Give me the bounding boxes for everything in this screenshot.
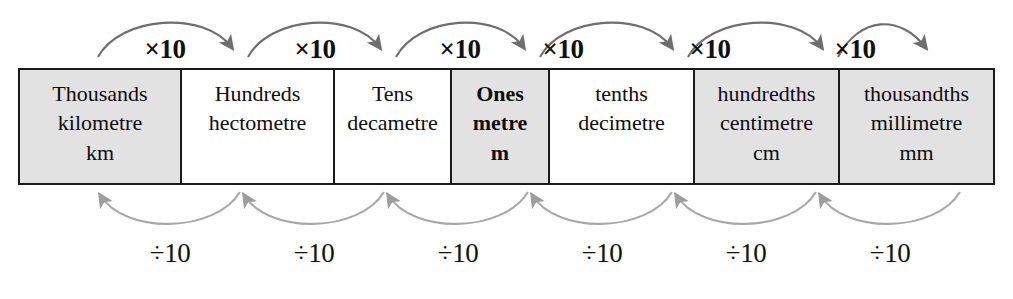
divide-label-1: ÷10 <box>125 240 215 267</box>
multiply-label-2: ×10 <box>270 36 360 63</box>
unit-name: decametre <box>347 108 437 137</box>
place-value-table: Thousands kilometre km Hundreds hectomet… <box>18 68 995 185</box>
place-value-name: Ones <box>476 79 524 108</box>
unit-name: metre <box>473 108 528 137</box>
unit-name: millimetre <box>871 108 963 137</box>
metric-conversion-chart: ×10 ×10 ×10 ×10 ×10 ×10 Thousands kilome… <box>0 0 1013 299</box>
place-value-cell-tens: Tens decametre <box>335 70 452 183</box>
unit-abbreviation: km <box>86 138 114 167</box>
divide-label-6: ÷10 <box>845 240 935 267</box>
divide-label-2: ÷10 <box>269 240 359 267</box>
place-value-cell-tenths: tenths decimetre <box>550 70 695 183</box>
unit-name: centimetre <box>720 108 813 137</box>
multiply-label-4: ×10 <box>518 36 608 63</box>
divide-arc-1 <box>100 192 240 224</box>
unit-name: decimetre <box>578 108 665 137</box>
place-value-name: hundredths <box>718 79 816 108</box>
place-value-name: thousandths <box>864 79 969 108</box>
unit-abbreviation: cm <box>753 138 780 167</box>
multiply-label-1: ×10 <box>120 36 210 63</box>
unit-abbreviation: m <box>491 138 509 167</box>
place-value-cell-ones: Ones metre m <box>452 70 550 183</box>
divide-label-4: ÷10 <box>557 240 647 267</box>
divide-arc-5 <box>676 192 816 224</box>
place-value-name: Tens <box>372 79 413 108</box>
place-value-cell-thousandths: thousandths millimetre mm <box>840 70 993 183</box>
place-value-name: Hundreds <box>215 79 301 108</box>
divide-arc-4 <box>532 192 672 224</box>
divide-arc-6 <box>820 192 960 224</box>
unit-name: hectometre <box>209 108 307 137</box>
multiply-label-3: ×10 <box>415 36 505 63</box>
multiply-label-6: ×10 <box>810 36 900 63</box>
place-value-cell-hundreds: Hundreds hectometre <box>182 70 335 183</box>
place-value-cell-thousands: Thousands kilometre km <box>20 70 182 183</box>
multiply-label-5: ×10 <box>665 36 755 63</box>
divide-arc-3 <box>388 192 528 224</box>
place-value-name: Thousands <box>52 79 147 108</box>
divide-label-3: ÷10 <box>413 240 503 267</box>
place-value-cell-hundredths: hundredths centimetre cm <box>695 70 840 183</box>
unit-name: kilometre <box>58 108 142 137</box>
unit-abbreviation: mm <box>899 138 933 167</box>
divide-arc-2 <box>244 192 384 224</box>
divide-label-5: ÷10 <box>701 240 791 267</box>
place-value-name: tenths <box>595 79 648 108</box>
